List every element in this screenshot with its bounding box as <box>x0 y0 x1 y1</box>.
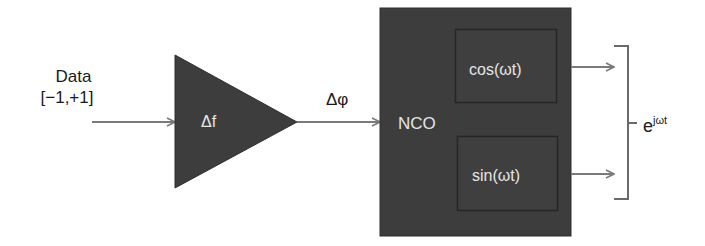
cos-label: cos(ωt) <box>469 62 522 78</box>
gain-triangle-block <box>175 55 297 188</box>
phase-label: Δφ <box>326 91 348 108</box>
input-label-line1: Data <box>47 68 100 85</box>
output-label-exponent: jωt <box>653 114 667 126</box>
output-bracket <box>614 46 637 199</box>
input-label-line2: [−1,+1] <box>33 89 101 106</box>
block-diagram <box>0 0 705 246</box>
sin-label: sin(ωt) <box>472 168 520 184</box>
nco-label: NCO <box>398 115 436 132</box>
output-label: ejωt <box>643 117 667 135</box>
gain-label: Δf <box>201 114 216 130</box>
output-label-base: e <box>643 116 653 136</box>
